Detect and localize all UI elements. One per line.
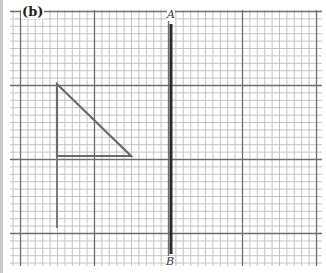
point-a-label: A xyxy=(167,9,175,21)
point-b-label: B xyxy=(166,256,174,268)
part-label: (b) xyxy=(21,5,44,19)
grid-diagram xyxy=(0,0,326,273)
